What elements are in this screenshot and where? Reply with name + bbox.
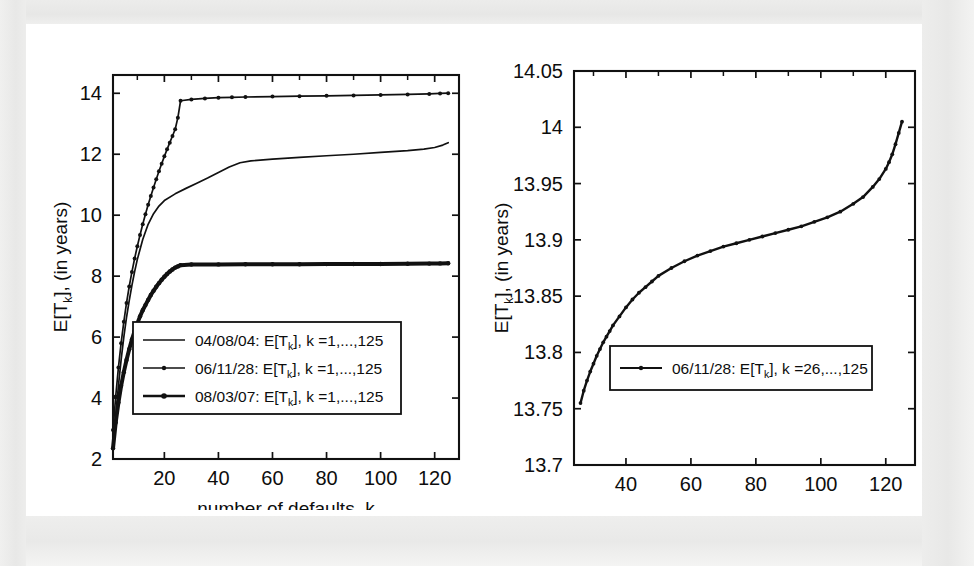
series-marker (351, 262, 355, 266)
x-tick-label: 100 (364, 467, 397, 489)
x-tick-label: 80 (745, 473, 767, 495)
series-marker (270, 95, 274, 99)
left-chart-panel: 04/08/04: E[Tk], k =1,...,12506/11/28: E… (40, 50, 480, 510)
series-marker (446, 261, 450, 265)
series-marker (670, 266, 674, 270)
series-marker (598, 347, 602, 351)
series-marker (151, 289, 155, 293)
series-marker (152, 185, 156, 189)
y-tick-label: 13.8 (524, 341, 563, 363)
series-marker (861, 195, 865, 199)
series-marker (297, 262, 301, 266)
svg-text:E[Tk], (in years): E[Tk], (in years) (492, 203, 516, 334)
series-marker (119, 384, 123, 388)
series-marker (173, 127, 177, 131)
series-marker (124, 358, 128, 362)
legend-swatch-marker (639, 366, 643, 370)
x-tick-label: 60 (680, 473, 702, 495)
series-marker (446, 91, 450, 95)
x-tick-label: 120 (418, 467, 451, 489)
series-marker (111, 446, 115, 450)
series-marker (582, 389, 586, 393)
series-marker (760, 235, 764, 239)
series-marker (325, 94, 329, 98)
series-marker (637, 291, 641, 295)
series-marker (721, 245, 725, 249)
x-tick-label: 120 (869, 473, 902, 495)
right-chart-legend: 06/11/28: E[Tk], k =26,...,125 (610, 346, 872, 390)
series-marker (165, 147, 169, 151)
series-marker (160, 162, 164, 166)
left-chart-legend: 04/08/04: E[Tk], k =1,...,12506/11/28: E… (133, 322, 401, 414)
series-marker (588, 370, 592, 374)
series-marker (877, 177, 881, 181)
series-marker (747, 238, 751, 242)
series-marker (138, 233, 142, 237)
series-marker (579, 401, 583, 405)
series-marker (608, 329, 612, 333)
series-marker (799, 224, 803, 228)
series-marker (650, 280, 654, 284)
y-tick-label: 6 (91, 326, 102, 348)
y-tick-label: 13.85 (513, 285, 563, 307)
series-marker (149, 194, 153, 198)
y-tick-label: 14 (80, 82, 102, 104)
series-marker (135, 244, 139, 248)
svg-text:E[Tk], (in years): E[Tk], (in years) (50, 202, 75, 333)
series-marker (601, 340, 605, 344)
series-marker (178, 263, 182, 267)
series-marker (786, 228, 790, 232)
y-axis-label: E[Tk], (in years) (492, 203, 516, 334)
series-marker (585, 379, 589, 383)
series-marker (838, 210, 842, 214)
series-marker (825, 215, 829, 219)
series-marker (890, 152, 894, 156)
series-marker (203, 96, 207, 100)
series-marker (851, 202, 855, 206)
series-marker (438, 91, 442, 95)
x-tick-label: 80 (315, 467, 337, 489)
series-marker (871, 185, 875, 189)
y-tick-label: 14.05 (513, 60, 563, 82)
series-marker (230, 95, 234, 99)
x-axis-label: number of defaults, k (656, 504, 834, 506)
scan-border-bottom (0, 516, 974, 566)
series-marker (146, 298, 150, 302)
series-marker (595, 354, 599, 358)
series-marker (605, 335, 609, 339)
x-tick-label: 60 (261, 467, 283, 489)
y-axis-label: E[Tk], (in years) (50, 202, 75, 333)
figure-root: 04/08/04: E[Tk], k =1,...,12506/11/28: E… (0, 0, 974, 566)
series-marker (657, 274, 661, 278)
series-marker (624, 306, 628, 310)
series-marker (897, 131, 901, 135)
right-chart-panel: 06/11/28: E[Tk], k =26,...,125 406080100… (492, 46, 932, 506)
right-axis-labels: 40608010012013.713.7513.813.8513.913.951… (492, 60, 902, 506)
series-marker (122, 370, 126, 374)
series-marker (352, 93, 356, 97)
series-marker (157, 169, 161, 173)
y-tick-label: 12 (80, 143, 102, 165)
series-marker (894, 142, 898, 146)
series-marker (734, 241, 738, 245)
series-marker (618, 315, 622, 319)
y-tick-label: 2 (91, 448, 102, 470)
series-marker (179, 99, 183, 103)
series-marker (138, 314, 142, 318)
series-marker (130, 270, 134, 274)
y-tick-label: 4 (91, 387, 102, 409)
series-marker (141, 222, 145, 226)
y-tick-label: 13.7 (524, 454, 563, 476)
x-axis-label: number of defaults, k (197, 498, 375, 510)
series-marker (162, 154, 166, 158)
scan-border-top (0, 0, 974, 24)
series-marker (406, 92, 410, 96)
series-marker (438, 261, 442, 265)
series-marker (243, 95, 247, 99)
series-marker (887, 160, 891, 164)
scan-border-left (0, 0, 26, 566)
series-marker (170, 134, 174, 138)
series-marker (696, 254, 700, 258)
series-marker (133, 256, 137, 260)
x-tick-label: 40 (207, 467, 229, 489)
